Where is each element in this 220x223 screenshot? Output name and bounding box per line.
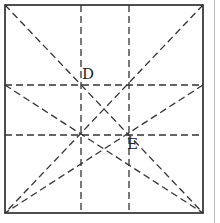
point-label-e: E <box>127 137 138 152</box>
point-label-d: D <box>82 67 94 82</box>
geometry-diagram <box>0 0 220 223</box>
page-edge <box>214 0 215 223</box>
